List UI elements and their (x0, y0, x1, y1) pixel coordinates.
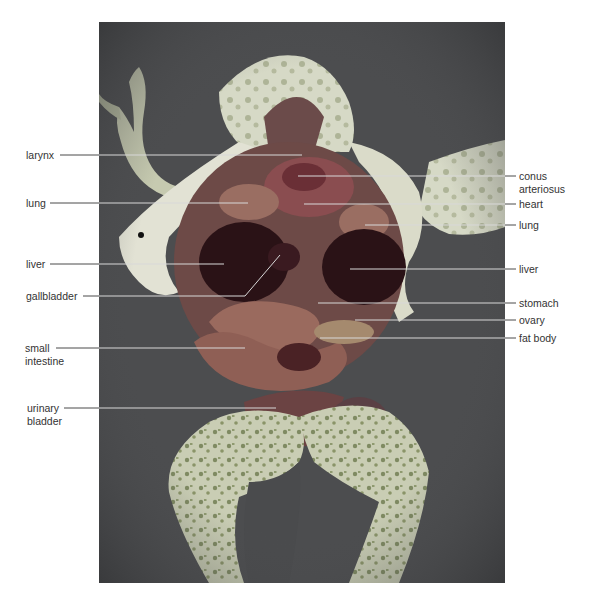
label-small-intestine-line1: small (25, 342, 64, 355)
label-urinary-bladder-line1: urinary (27, 402, 62, 415)
label-stomach: stomach (519, 297, 559, 310)
label-conus-arteriosus: conus arteriosus (519, 170, 565, 196)
label-conus-arteriosus-line2: arteriosus (519, 183, 565, 196)
label-liver-left: liver (26, 258, 45, 271)
label-fat-body: fat body (519, 332, 556, 345)
label-heart: heart (519, 198, 543, 211)
label-small-intestine: small intestine (25, 342, 64, 368)
label-gallbladder: gallbladder (26, 290, 77, 303)
label-small-intestine-line2: intestine (25, 355, 64, 368)
frog-illustration (99, 22, 505, 583)
frog-dissection-photo (99, 22, 505, 583)
label-ovary: ovary (519, 314, 545, 327)
label-larynx: larynx (26, 149, 54, 162)
label-liver-right: liver (519, 263, 538, 276)
label-conus-arteriosus-line1: conus (519, 170, 565, 183)
label-urinary-bladder-line2: bladder (27, 415, 62, 428)
label-lung-left: lung (26, 197, 46, 210)
label-urinary-bladder: urinary bladder (27, 402, 62, 428)
label-lung-right: lung (519, 219, 539, 232)
